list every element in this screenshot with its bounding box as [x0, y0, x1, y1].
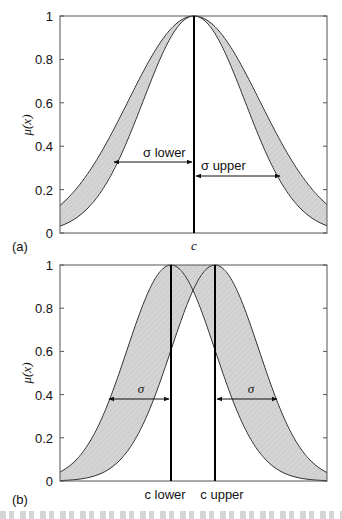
y-tick-label: 0.4 — [35, 388, 53, 403]
panel-label-a: (a) — [12, 239, 28, 254]
cropped-caption-text — [0, 511, 342, 519]
x-label-c-lower: c lower — [144, 487, 186, 502]
x-label-c: c — [191, 238, 197, 253]
y-tick-label: 1 — [46, 258, 53, 273]
panel-a: 00.20.40.60.81 σ lower σ upper c (a) μ(x… — [12, 9, 327, 254]
y-tick-label: 0.8 — [35, 52, 53, 67]
y-tick-label: 0.4 — [35, 139, 53, 154]
y-tick-label: 0.2 — [35, 183, 53, 198]
panel-label-b: (b) — [12, 492, 28, 507]
sigma-upper-label: σ upper — [201, 158, 247, 173]
x-label-c-upper: c upper — [200, 487, 244, 502]
y-axis-label-a: μ(x) — [19, 115, 34, 137]
y-axis-label-b: μ(x) — [19, 363, 34, 385]
y-tick-label: 0.6 — [35, 344, 53, 359]
y-tick-label: 1 — [46, 9, 53, 24]
panel-b: 00.20.40.60.81 σ σ c lower c upper (b) μ… — [12, 258, 327, 507]
y-tick-label: 0.6 — [35, 96, 53, 111]
sigma-lower-label: σ lower — [143, 145, 186, 160]
y-tick-label: 0 — [46, 474, 53, 489]
sigma-left-label: σ — [138, 381, 145, 396]
fou-area-b — [60, 265, 327, 481]
y-tick-label: 0.2 — [35, 431, 53, 446]
sigma-right-label: σ — [248, 381, 255, 396]
figure: 00.20.40.60.81 σ lower σ upper c (a) μ(x… — [0, 0, 342, 519]
y-tick-label: 0.8 — [35, 301, 53, 316]
y-tick-label: 0 — [46, 226, 53, 241]
